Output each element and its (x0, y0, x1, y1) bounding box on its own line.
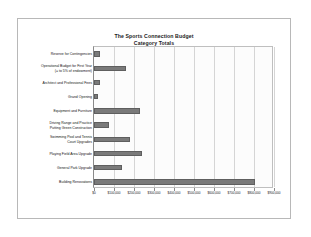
y-axis-tick-label: Grand Opening (0, 94, 94, 98)
bar-row (94, 104, 272, 118)
x-axis-labels: $0$100,000$200,000$300,000$400,000$500,0… (94, 191, 274, 201)
gridline (274, 47, 275, 187)
bar (94, 80, 100, 86)
x-axis-tick-mark (94, 188, 95, 191)
bar-row (94, 175, 272, 189)
x-axis-tick-mark (114, 188, 115, 191)
bar-row (94, 75, 272, 89)
bar-row (94, 47, 272, 61)
y-axis-tick-label: General Park Upgrade (0, 165, 94, 169)
chart-title: The Sports Connection Budget Category To… (18, 33, 290, 46)
bar (94, 108, 140, 114)
plot-area: Reserve for ContingenciesOperational Bud… (93, 46, 273, 188)
bar-row (94, 118, 272, 132)
y-axis-labels: Reserve for ContingenciesOperational Bud… (0, 47, 94, 189)
bar-row (94, 132, 272, 146)
y-axis-tick-label: Building Renovations (0, 180, 94, 184)
x-axis-tick-mark (214, 188, 215, 191)
bar-row (94, 61, 272, 75)
bar-row (94, 161, 272, 175)
x-axis-tick-label: $100,000 (108, 191, 121, 195)
x-axis-tick-label: $0 (92, 191, 95, 195)
x-axis-tick-label: $900,000 (268, 191, 281, 195)
bar (94, 179, 255, 185)
y-axis-tick-label: Architect and Professional Fees (0, 80, 94, 84)
bar (94, 165, 122, 171)
y-axis-tick-label: Operational Budget for First Year (= to … (0, 64, 94, 73)
x-axis-tick-mark (134, 188, 135, 191)
y-axis-tick-label: Playing Field Area Upgrade (0, 151, 94, 155)
bar-row (94, 90, 272, 104)
x-axis-tick-label: $700,000 (228, 191, 241, 195)
y-axis-tick-label: Driving Range and Practice Putting Green… (0, 121, 94, 130)
bar (94, 137, 130, 143)
x-axis-tick-mark (194, 188, 195, 191)
x-axis-tick-label: $300,000 (148, 191, 161, 195)
bar (94, 122, 109, 128)
x-axis-tick-label: $200,000 (128, 191, 141, 195)
bar (94, 66, 126, 72)
bar (94, 94, 98, 100)
x-axis-tick-mark (274, 188, 275, 191)
x-axis-tick-mark (254, 188, 255, 191)
chart-title-line-1: The Sports Connection Budget (18, 33, 290, 40)
chart-frame: The Sports Connection Budget Category To… (17, 18, 291, 219)
y-axis-tick-label: Reserve for Contingencies (0, 52, 94, 56)
x-axis-tick-label: $600,000 (208, 191, 221, 195)
bar-row (94, 146, 272, 160)
x-axis-tick-mark (174, 188, 175, 191)
y-axis-tick-label: Equipment and Furniture (0, 109, 94, 113)
bar (94, 151, 142, 157)
x-axis-tick-mark (234, 188, 235, 191)
y-axis-tick-label: Swimming Pool and Tennis Court Upgrades (0, 135, 94, 144)
x-axis-tick-label: $800,000 (248, 191, 261, 195)
x-axis-tick-mark (154, 188, 155, 191)
x-axis-tick-label: $400,000 (168, 191, 181, 195)
x-axis-tick-label: $500,000 (188, 191, 201, 195)
bar (94, 51, 100, 57)
